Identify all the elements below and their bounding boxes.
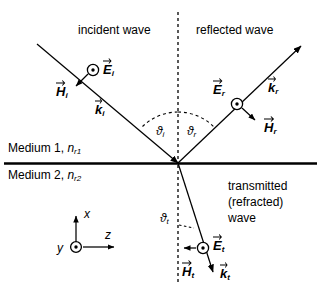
vector-arrow-overbar-icon	[103, 58, 112, 64]
transmitted-ray	[178, 163, 213, 272]
angle-of-transmission-label: ϑt	[160, 211, 169, 225]
incident-E-subscript: i	[112, 69, 114, 78]
medium-1-index-subscript: r1	[74, 147, 81, 156]
reflected-E-vector-label: Er	[213, 82, 225, 97]
medium-2-index-subscript: r2	[74, 174, 81, 183]
incident-E-field-out-of-page-dot	[91, 68, 94, 71]
transmitted-H-symbol: H	[182, 264, 191, 279]
angle-of-reflection-label: ϑr	[187, 124, 196, 138]
incident-H-field-arrow	[76, 74, 88, 86]
x-axis-label: x	[84, 207, 90, 221]
incident-k-subscript: i	[102, 109, 104, 118]
vector-arrow-overbar-icon	[220, 262, 228, 268]
transmitted-E-field-out-of-page-dot	[201, 246, 204, 249]
transmitted-H-vector-label: Ht	[182, 264, 194, 279]
angle-of-transmission-symbol: ϑ	[160, 211, 167, 225]
vector-arrow-overbar-icon	[182, 260, 192, 266]
angle-of-transmission-subscript: t	[167, 217, 169, 226]
reflected-wave-label: reflected wave	[196, 24, 273, 37]
angle-of-reflection-symbol: ϑ	[187, 124, 194, 138]
medium-2-label: Medium 2, nr2	[8, 169, 81, 182]
angle-of-incidence-subscript: i	[163, 130, 165, 139]
y-axis-label: y	[57, 241, 63, 255]
reflected-H-vector-label: Hr	[264, 120, 277, 135]
medium-1-label: Medium 1, nr1	[8, 142, 81, 155]
vector-arrow-overbar-icon	[264, 116, 275, 122]
incident-H-symbol: H	[56, 84, 65, 99]
transmitted-wave-label-line2: (refracted)	[228, 196, 283, 209]
reflected-H-subscript: r	[273, 127, 276, 136]
z-axis-label: z	[105, 228, 111, 242]
incident-E-vector-label: Ei	[103, 62, 114, 77]
vector-arrow-overbar-icon	[56, 80, 66, 86]
reflected-H-field-arrow	[242, 108, 255, 120]
y-axis-out-of-page-dot	[74, 245, 77, 248]
vector-arrow-overbar-icon	[268, 76, 276, 82]
medium-2-name: Medium 2,	[8, 168, 64, 182]
incident-H-vector-label: Hi	[56, 84, 68, 99]
transmitted-E-vector-label: Et	[213, 238, 224, 253]
transmitted-H-subscript: t	[191, 271, 194, 280]
vector-arrow-overbar-icon	[213, 234, 222, 240]
angle-of-incidence-label: ϑi	[156, 124, 164, 138]
transmitted-wave-label-line1: transmitted	[228, 180, 287, 193]
incident-k-vector-label: ki	[95, 102, 104, 117]
vector-arrow-overbar-icon	[213, 78, 223, 84]
transmitted-E-symbol: E	[213, 238, 222, 253]
reflected-E-field-out-of-page-dot	[235, 102, 238, 105]
transmitted-k-vector-label: kt	[220, 266, 230, 281]
angle-of-reflection-subscript: r	[194, 130, 197, 139]
incident-wave-label: incident wave	[78, 24, 151, 37]
medium-1-name: Medium 1,	[8, 141, 64, 155]
reflected-H-symbol: H	[264, 120, 273, 135]
transmitted-E-subscript: t	[222, 245, 225, 254]
wave-reflection-refraction-diagram: incident wave reflected wave transmitted…	[0, 0, 321, 299]
transmitted-wave-label-line3: wave	[228, 212, 256, 225]
angle-of-transmission-tick	[179, 225, 194, 228]
vector-arrow-overbar-icon	[95, 98, 102, 104]
reflected-E-subscript: r	[222, 89, 225, 98]
incident-E-symbol: E	[103, 62, 112, 77]
angle-of-incidence-symbol: ϑ	[156, 124, 163, 138]
reflected-k-vector-label: kr	[268, 80, 278, 95]
incident-H-subscript: i	[65, 91, 67, 100]
reflected-k-subscript: r	[275, 87, 278, 96]
transmitted-k-subscript: t	[227, 273, 230, 282]
reflected-E-symbol: E	[213, 82, 222, 97]
